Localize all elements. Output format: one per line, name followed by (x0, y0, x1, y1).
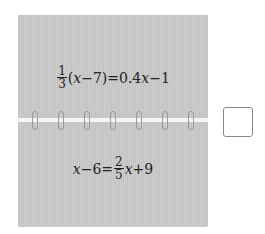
binder-ring-icon (136, 111, 142, 130)
answer-box[interactable] (223, 107, 253, 137)
bottom-equation: x −6= 2 5 x +9 (18, 156, 208, 181)
binder-ring-icon (32, 111, 38, 130)
eq-var: x (141, 70, 149, 86)
eq-part: +9 (133, 161, 154, 177)
binder-ring-icon (110, 111, 116, 130)
fraction-one-third: 1 3 (57, 65, 67, 90)
binder-ring-icon (188, 111, 194, 130)
eq-part: −7)=0.4 (81, 70, 141, 86)
eq-part: −6= (81, 161, 113, 177)
binder-ring-icon (58, 111, 64, 130)
eq-var: x (73, 70, 81, 86)
bottom-equation-card: x −6= 2 5 x +9 (18, 122, 208, 227)
top-equation: 1 3 ( x −7)=0.4 x −1 (18, 65, 208, 90)
fraction-two-fifths: 2 5 (114, 156, 124, 181)
top-equation-card: 1 3 ( x −7)=0.4 x −1 (18, 15, 208, 118)
fraction-denominator: 3 (58, 78, 66, 90)
eq-part: −1 (149, 70, 170, 86)
eq-var: x (125, 161, 133, 177)
fraction-denominator: 5 (115, 169, 123, 181)
binder-ring-icon (162, 111, 168, 130)
eq-var: x (73, 161, 81, 177)
binder-ring-icon (84, 111, 90, 130)
